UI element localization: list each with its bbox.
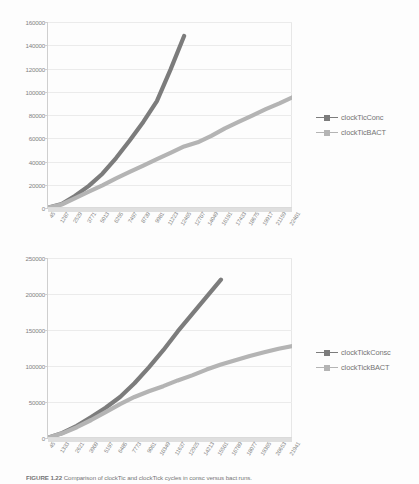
x-tick-label: 9981 bbox=[154, 211, 165, 224]
x-tick-label: 1287 bbox=[58, 211, 69, 224]
y-tick-label: 40000 bbox=[29, 158, 45, 165]
y-tick-label: 120000 bbox=[26, 65, 45, 72]
legend-item[interactable]: clockTicBACT bbox=[316, 128, 386, 137]
y-tick-label: 20000 bbox=[29, 181, 45, 188]
x-tick-label: 21159 bbox=[275, 211, 288, 226]
x-tick-label: 19917 bbox=[261, 211, 274, 227]
series-key-gray-icon bbox=[316, 364, 338, 371]
x-tick-label: 16789 bbox=[231, 441, 244, 457]
legend-label: clockTickBACT bbox=[341, 363, 390, 372]
series-key-dark-icon bbox=[316, 114, 338, 121]
series-line bbox=[48, 280, 221, 437]
x-tick-label: 18077 bbox=[245, 441, 258, 457]
x-tick-label: 45 bbox=[48, 441, 56, 449]
series-layer-top bbox=[48, 22, 292, 207]
legend-top: clockTicConcclockTicBACT bbox=[316, 113, 386, 143]
figure-caption-label: FIGURE 1.22 bbox=[26, 474, 62, 481]
y-tick-label: 250000 bbox=[26, 255, 45, 262]
x-tick-label: 3909 bbox=[88, 441, 99, 454]
y-tick-label: 100000 bbox=[26, 88, 45, 95]
x-tick-label: 15501 bbox=[216, 441, 229, 457]
x-tick-label: 22401 bbox=[288, 211, 301, 227]
x-tick-label: 3771 bbox=[86, 211, 97, 224]
x-tick-label: 19365 bbox=[259, 441, 272, 457]
x-tick-label: 10349 bbox=[159, 441, 172, 457]
x-tick-label: 20653 bbox=[274, 441, 287, 457]
legend-label: clockTicBACT bbox=[341, 128, 386, 137]
figure-page: 0200004000060000800001000001200001400001… bbox=[0, 0, 419, 484]
clock-tick-chart: 050000100000150000200000250000 451333262… bbox=[0, 250, 419, 474]
x-tick-label: 12707 bbox=[193, 211, 206, 227]
x-tick-label: 1333 bbox=[59, 441, 70, 454]
x-tick-labels-top: 4512872529377150136255749787399981112231… bbox=[47, 211, 292, 251]
y-tick-label: 140000 bbox=[26, 42, 45, 49]
x-tick-label: 11223 bbox=[166, 211, 179, 226]
clock-tic-chart: 0200004000060000800001000001200001400001… bbox=[0, 8, 419, 244]
x-tick-label: 6485 bbox=[117, 441, 128, 454]
x-tick-label: 6255 bbox=[113, 211, 124, 224]
x-tick-label: 16191 bbox=[220, 211, 233, 227]
legend-label: clockTicConc bbox=[341, 113, 383, 122]
x-tick-label: 7773 bbox=[131, 441, 142, 454]
figure-caption-body: Comparison of clockTic and clockTick cyc… bbox=[64, 474, 252, 481]
legend-item[interactable]: clockTickBACT bbox=[316, 363, 391, 372]
x-tick-label: 11637 bbox=[173, 441, 186, 456]
legend-label: clockTickConsc bbox=[341, 348, 391, 357]
x-tick-label: 7497 bbox=[126, 211, 137, 224]
x-tick-label: 2529 bbox=[72, 211, 83, 224]
x-tick-label: 5197 bbox=[102, 441, 113, 454]
x-tick-label: 21941 bbox=[288, 441, 301, 457]
plot-area-bottom: 050000100000150000200000250000 bbox=[47, 258, 292, 438]
x-tick-label: 12465 bbox=[179, 211, 192, 227]
figure-caption: FIGURE 1.22 Comparison of clockTic and c… bbox=[26, 474, 406, 481]
y-tick-label: 160000 bbox=[26, 19, 45, 26]
series-svg bbox=[48, 258, 292, 437]
y-tick-label: 50000 bbox=[29, 399, 45, 406]
plot-area-top: 0200004000060000800001000001200001400001… bbox=[47, 22, 292, 208]
legend-item[interactable]: clockTicConc bbox=[316, 113, 386, 122]
x-tick-label: 14213 bbox=[202, 441, 215, 457]
y-tick-label: 60000 bbox=[29, 135, 45, 142]
series-layer-bottom bbox=[48, 258, 292, 437]
x-tick-label: 8739 bbox=[140, 211, 151, 224]
legend-item[interactable]: clockTickConsc bbox=[316, 348, 391, 357]
series-key-gray-icon bbox=[316, 129, 338, 136]
series-line bbox=[48, 346, 292, 437]
y-tick-label: 100000 bbox=[26, 363, 45, 370]
x-tick-label: 45 bbox=[48, 211, 56, 219]
x-tick-label: 5013 bbox=[99, 211, 110, 224]
series-key-dark-icon bbox=[316, 349, 338, 356]
x-tick-label: 2621 bbox=[74, 441, 85, 454]
y-tick-label: 80000 bbox=[29, 112, 45, 119]
x-tick-label: 9061 bbox=[146, 441, 157, 454]
legend-bottom: clockTickConscclockTickBACT bbox=[316, 348, 391, 378]
series-svg bbox=[48, 22, 292, 207]
x-tick-label: 12925 bbox=[187, 441, 200, 457]
y-tick-label: 150000 bbox=[26, 327, 45, 334]
series-line bbox=[48, 36, 184, 207]
x-tick-label: 14049 bbox=[207, 211, 220, 227]
y-tick-label: 200000 bbox=[26, 291, 45, 298]
x-tick-label: 18675 bbox=[247, 211, 260, 227]
x-tick-label: 17433 bbox=[234, 211, 247, 227]
